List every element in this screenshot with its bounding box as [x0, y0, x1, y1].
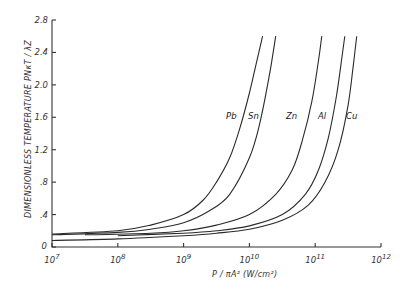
x-tick-label: 109 — [176, 253, 192, 265]
y-tick-label: 1.6 — [34, 112, 48, 122]
y-tick-label: 2.0 — [34, 80, 48, 90]
axis-lines — [52, 20, 381, 247]
y-tick-label: 2.8 — [34, 15, 48, 25]
y-tick-label: 0 — [42, 241, 47, 251]
data-curves — [52, 36, 357, 240]
curve-cu — [52, 36, 357, 240]
label-cu: Cu — [346, 111, 357, 121]
x-tick-label: 1010 — [240, 253, 260, 265]
series-labels: PbSnZnAlCu — [226, 111, 357, 121]
temperature-vs-intensity-chart: 0.4.81.21.62.02.42.810710810910101011101… — [0, 0, 412, 293]
x-tick-label: 108 — [110, 253, 126, 265]
tick-labels: 0.4.81.21.62.02.42.810710810910101011101… — [34, 15, 391, 265]
curve-pb — [52, 36, 263, 234]
label-sn: Sn — [248, 111, 259, 121]
x-axis-title: P / πA² (W/cm²) — [212, 270, 277, 279]
y-tick-label: .4 — [40, 210, 48, 220]
label-zn: Zn — [285, 111, 297, 121]
y-tick-label: 2.4 — [34, 47, 48, 57]
y-tick-label: .8 — [40, 177, 49, 187]
x-tick-label: 107 — [44, 253, 60, 265]
curve-sn — [52, 36, 276, 235]
y-tick-label: 1.2 — [34, 145, 48, 155]
label-pb: Pb — [226, 111, 237, 121]
x-tick-label: 1012 — [371, 253, 391, 265]
label-al: Al — [317, 111, 327, 121]
y-axis-title: DIMENSIONLESS TEMPERATURE PNκT / λZ — [24, 40, 33, 218]
curve-zn — [85, 36, 322, 235]
axes — [52, 20, 381, 247]
curve-al — [118, 36, 345, 236]
x-tick-label: 1011 — [305, 253, 325, 265]
